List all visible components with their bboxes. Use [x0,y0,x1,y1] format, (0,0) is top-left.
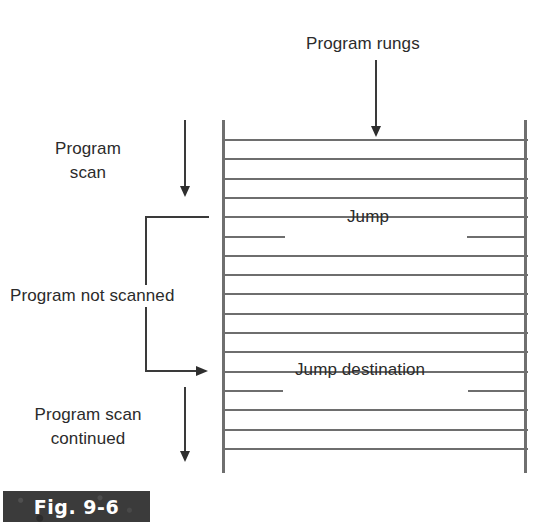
program-scan-continued-arrow-head [180,451,190,462]
program-scan-label-line2: scan [28,162,148,184]
program-scan-continued-label-line1: Program scan [18,404,158,426]
ladder-rung [222,158,528,160]
program-rungs-arrow-shaft [375,60,377,128]
jump-destination-rung-label: Jump destination [295,359,425,381]
program-scan-arrow-shaft [184,120,186,188]
ladder-rung [222,409,528,411]
ladder-rung [222,178,528,180]
program-scan-label-line1: Program [28,138,148,160]
program-scan-arrow-head [180,186,190,197]
ladder-rung [222,293,528,295]
ladder-rung-segment [468,390,526,392]
ladder-right-rail [524,120,527,473]
ladder-rung [222,313,528,315]
ladder-left-rail [222,120,225,473]
ladder-rung [222,351,528,353]
ladder-rung [222,197,528,199]
ladder-rung-segment [222,390,283,392]
ladder-rung [222,274,528,276]
figure-canvas: Program rungs Program scan Program not s… [0,0,536,531]
ladder-rung [222,332,528,334]
program-rungs-arrow-head [371,126,381,137]
figure-caption-text: Fig. 9-6 [34,496,119,518]
skip-bracket-arrow-head [196,366,208,376]
skip-bracket-bottom [145,370,197,372]
program-rungs-label: Program rungs [306,33,420,55]
skip-bracket-top [145,216,209,218]
ladder-rung [222,139,528,141]
ladder-rung-segment [222,236,285,238]
ladder-rung [222,429,528,431]
program-not-scanned-label: Program not scanned [8,285,176,307]
program-scan-continued-label-line2: continued [18,428,158,450]
program-scan-continued-arrow-shaft [184,387,186,453]
jump-rung-label: Jump [347,206,389,228]
ladder-rung [222,255,528,257]
ladder-rung [222,448,528,450]
figure-caption-plate: Fig. 9-6 [3,491,150,522]
ladder-rung-segment [467,236,526,238]
